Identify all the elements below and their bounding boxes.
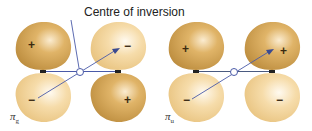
pi-u-symmetry-label: πu — [165, 110, 174, 125]
pi-g-sign-top-left: + — [28, 39, 35, 51]
pi-g-lobe-bottom-right — [91, 73, 146, 122]
pi-g-nucleus-right — [115, 70, 121, 73]
pi-g-sign-top-right: − — [124, 40, 131, 52]
pi-g-centre-pointer — [71, 20, 79, 68]
pi-u-lobe-bottom-left — [169, 73, 224, 122]
pi-g-sign-bottom-left: − — [28, 94, 35, 106]
pi-u-subscript: u — [171, 117, 175, 125]
pi-g-lobe-top-left — [16, 22, 71, 70]
pi-g-nucleus-left — [40, 70, 46, 73]
pi-u-nucleus-left — [193, 70, 199, 73]
pi-u-lobe-bottom-right — [245, 73, 300, 122]
pi-u-lobe-top-right — [245, 22, 300, 70]
pi-g-symmetry-label: πg — [10, 110, 19, 125]
orbital-diagram-canvas — [0, 0, 312, 131]
pi-u-sign-bottom-right: − — [276, 94, 283, 106]
pi-g-subscript: g — [16, 117, 20, 125]
centre-of-inversion-label: Centre of inversion — [84, 5, 185, 19]
pi-g-lobe-bottom-left — [16, 73, 71, 122]
pi-u-sign-bottom-left: − — [183, 94, 190, 106]
pi-g-lobe-top-right — [91, 22, 146, 70]
pi-u-sign-top-left: + — [182, 43, 189, 55]
pi-u-diagram — [169, 22, 300, 122]
pi-u-nucleus-right — [269, 70, 275, 73]
pi-u-centre-of-inversion — [231, 69, 238, 76]
pi-u-lobe-top-left — [169, 22, 224, 70]
pi-g-centre-of-inversion — [77, 69, 84, 76]
pi-g-sign-bottom-right: + — [124, 94, 131, 106]
pi-u-sign-top-right: + — [280, 45, 287, 57]
